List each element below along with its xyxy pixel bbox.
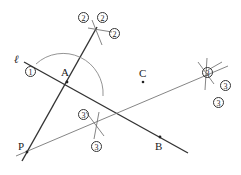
step-marker-3a: 3 [202,67,213,78]
step-marker-1: 1 [25,66,36,77]
point-p [26,151,29,154]
arc-mark-3e [94,112,99,139]
construction-diagram [0,0,241,175]
line-l [24,62,188,153]
step-marker-2c: 2 [109,28,120,39]
label-p: P [18,141,24,152]
label-b: B [155,141,162,152]
label-a: A [61,67,69,78]
step-marker-3e: 3 [91,141,102,152]
point-b [159,136,162,139]
line-pa [22,27,97,161]
step-marker-3b: 3 [220,80,231,91]
line-pc [16,66,228,156]
step-marker-3d: 3 [78,109,89,120]
point-a [66,81,69,84]
point-c [142,81,145,84]
step-marker-3c: 3 [213,97,224,108]
line-label-l: ℓ [14,54,19,65]
label-c: C [139,68,146,79]
step-marker-2a: 2 [78,12,89,23]
step-marker-2b: 2 [97,12,108,23]
